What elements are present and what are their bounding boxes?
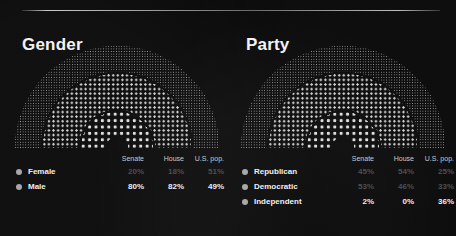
value-female-senate: 20% [104,167,144,176]
legend-row-male[interactable]: Male 80% 82% 49% [16,179,224,194]
legend-name-democratic: Democratic [242,182,334,191]
chart-panels: Gender Senate House U.S. pop. Female 20%… [0,0,456,236]
series-label-male: Male [28,182,46,191]
legend-dot-icon [16,169,22,175]
column-header-house: House [144,155,184,162]
value-republican-us-pop: 25% [414,167,454,176]
value-democratic-senate: 53% [334,182,374,191]
value-independent-us-pop: 36% [414,197,454,206]
legend-name-male: Male [16,182,104,191]
legend-dot-icon [16,184,22,190]
value-democratic-us-pop: 33% [414,182,454,191]
legend-name-independent: Independent [242,197,334,206]
value-female-house: 18% [144,167,184,176]
value-male-house: 82% [144,182,184,191]
arc-chart-gender [14,46,220,148]
legend-dot-icon [242,169,248,175]
value-democratic-house: 46% [374,182,414,191]
legend-dot-icon [242,184,248,190]
series-label-republican: Republican [254,167,297,176]
column-header-house: House [374,155,414,162]
legend-header-row: Senate House U.S. pop. [242,152,454,164]
series-label-independent: Independent [254,197,302,206]
column-header-senate: Senate [104,155,144,162]
legend-name-female: Female [16,167,104,176]
value-independent-house: 0% [374,197,414,206]
value-republican-house: 54% [374,167,414,176]
column-header-us-pop: U.S. pop. [414,155,454,162]
legend-row-female[interactable]: Female 20% 18% 51% [16,164,224,179]
value-republican-senate: 45% [334,167,374,176]
value-independent-senate: 2% [334,197,374,206]
legend-header-row: Senate House U.S. pop. [16,152,224,164]
panel-gender: Gender Senate House U.S. pop. Female 20%… [0,0,228,236]
panel-party: Party Senate House U.S. pop. Republican … [228,0,456,236]
legend-row-republican[interactable]: Republican 45% 54% 25% [242,164,454,179]
legend-dot-icon [242,199,248,205]
legend-row-democratic[interactable]: Democratic 53% 46% 33% [242,179,454,194]
arc-chart-party [240,46,446,148]
value-male-senate: 80% [104,182,144,191]
legend-name-republican: Republican [242,167,334,176]
column-header-us-pop: U.S. pop. [184,155,224,162]
value-male-us-pop: 49% [184,182,224,191]
legend-party: Senate House U.S. pop. Republican 45% 54… [242,152,454,209]
legend-row-independent[interactable]: Independent 2% 0% 36% [242,194,454,209]
legend-gender: Senate House U.S. pop. Female 20% 18% 51… [16,152,224,194]
column-header-senate: Senate [334,155,374,162]
series-label-female: Female [28,167,56,176]
series-label-democratic: Democratic [254,182,298,191]
value-female-us-pop: 51% [184,167,224,176]
